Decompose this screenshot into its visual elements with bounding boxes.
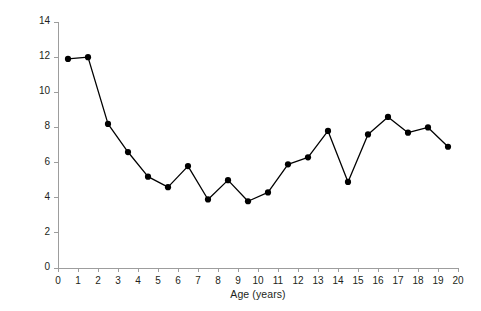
axes	[54, 22, 458, 272]
y-axis-tick-label: 8	[26, 120, 50, 131]
y-axis-tick-label: 14	[26, 15, 50, 26]
x-axis-tick-label: 20	[446, 275, 470, 286]
y-axis-tick-label: 12	[26, 50, 50, 61]
data-point-markers	[65, 54, 451, 204]
y-axis-tick-label: 10	[26, 85, 50, 96]
chart-canvas	[0, 0, 481, 311]
y-axis-tick-label: 4	[26, 191, 50, 202]
y-axis-tick-label: 0	[26, 261, 50, 272]
chart-figure: 02468101214 0123456789101112131415161718…	[0, 0, 481, 311]
data-series-line	[68, 57, 448, 201]
y-axis-tick-label: 6	[26, 156, 50, 167]
y-axis-tick-label: 2	[26, 226, 50, 237]
x-axis-title: Age (years)	[58, 288, 458, 300]
